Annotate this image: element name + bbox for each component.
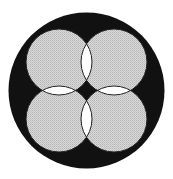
four-circles-diagram (0, 0, 173, 179)
